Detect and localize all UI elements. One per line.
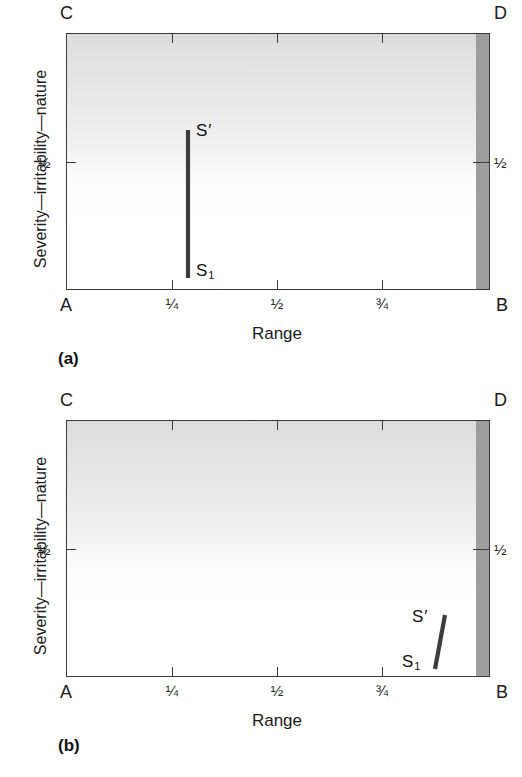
- x-axis-title-b: Range: [0, 711, 522, 731]
- x-axis-title-a: Range: [0, 324, 522, 344]
- panel-caption-b: (b): [58, 736, 80, 756]
- figure-panel-b: C D A B S′ S1 ¼ ½ ¾ ½ ½ Range Severity—i…: [0, 387, 522, 777]
- corner-label-a: A: [60, 296, 72, 314]
- y-tick-label-right-half: ½: [494, 155, 507, 170]
- plot-area-b: [66, 420, 490, 677]
- segment-label-sprime-a: S′: [196, 122, 213, 139]
- x-tick-label-three-quarter: ¾: [376, 683, 389, 698]
- corner-label-c: C: [60, 391, 73, 409]
- corner-label-b: B: [496, 683, 508, 701]
- corner-label-d: D: [494, 391, 507, 409]
- x-tick-label-half: ½: [271, 296, 284, 311]
- y-tick-label-right-half: ½: [494, 542, 507, 557]
- x-tick-label-half: ½: [271, 683, 284, 698]
- segment-label-s1-b: S1: [402, 653, 419, 670]
- corner-label-a: A: [60, 683, 72, 701]
- y-axis-title-a: Severity—irritability—nature: [32, 39, 50, 299]
- corner-label-d: D: [494, 4, 507, 22]
- x-tick-label-quarter: ¼: [166, 296, 179, 311]
- x-tick-label-quarter: ¼: [166, 683, 179, 698]
- segment-label-sprime-b: S′: [412, 608, 429, 625]
- segment-label-s1-a: S1: [196, 262, 213, 279]
- panel-caption-a: (a): [58, 349, 79, 369]
- segment-s1-sprime-b: [67, 421, 490, 677]
- segment-s1-sprime-a: [67, 34, 490, 290]
- y-axis-title-b: Severity—irritability—nature: [32, 426, 50, 686]
- corner-label-b: B: [496, 296, 508, 314]
- figure-panel-a: C D A B S′ S1 ¼ ½ ¾ ½ ½ Range Severity—i…: [0, 0, 522, 390]
- corner-label-c: C: [60, 4, 73, 22]
- plot-area-a: [66, 33, 490, 290]
- segment-line: [435, 615, 445, 669]
- x-tick-label-three-quarter: ¾: [376, 296, 389, 311]
